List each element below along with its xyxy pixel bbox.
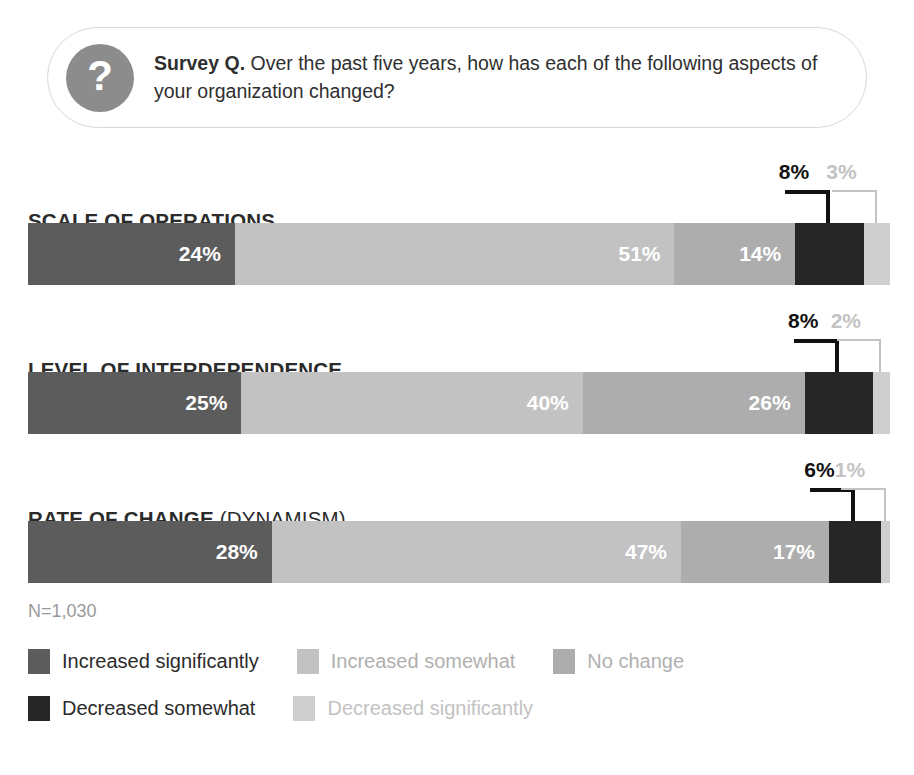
bar-segment[interactable]: 3% xyxy=(864,223,890,285)
bar-segment[interactable]: 47% xyxy=(272,521,681,583)
bar-segment[interactable]: 6% xyxy=(829,521,881,583)
bar-segment[interactable]: 26% xyxy=(583,372,805,434)
bar-segment[interactable]: 24% xyxy=(28,223,235,285)
legend-item-label: Increased significantly xyxy=(62,650,259,673)
bar-segment-value: 17% xyxy=(773,540,829,564)
callout-leader-line xyxy=(841,488,886,521)
legend-item-label: Decreased somewhat xyxy=(62,697,255,720)
callout-leader-line xyxy=(785,190,830,223)
sample-size-note: N=1,030 xyxy=(28,601,888,622)
question-mark-icon: ? xyxy=(66,44,134,112)
bar-segment-value: 25% xyxy=(185,391,241,415)
callout-value-label: 1% xyxy=(835,458,865,482)
bar-group: RATE OF CHANGE (DYNAMISM)6%1%28%47%17%6%… xyxy=(0,458,914,583)
bar-segment-value: 24% xyxy=(179,242,235,266)
legend-item-label: Increased somewhat xyxy=(331,650,516,673)
bar-segment[interactable]: 25% xyxy=(28,372,241,434)
bar-segment-value: 14% xyxy=(739,242,795,266)
bar-segment[interactable]: 2% xyxy=(873,372,890,434)
callout-value-label: 3% xyxy=(826,160,856,184)
question-mark-glyph: ? xyxy=(87,55,113,97)
bar-segment-value: 40% xyxy=(527,391,583,415)
callout-leader-line xyxy=(794,339,839,372)
bar-segment-value: 26% xyxy=(749,391,805,415)
survey-question-lead: Survey Q. xyxy=(154,52,245,74)
callout-zone: 8%3% xyxy=(28,160,890,223)
bar-segment-value: 51% xyxy=(618,242,674,266)
bar-segment-value: 28% xyxy=(216,540,272,564)
legend-swatch-icon xyxy=(28,696,50,721)
legend-item[interactable]: No change xyxy=(553,649,684,674)
callout-leader-line xyxy=(832,190,877,223)
callout-value-label: 8% xyxy=(779,160,809,184)
legend-row: Decreased somewhatDecreased significantl… xyxy=(28,696,888,721)
bar-segment[interactable]: 51% xyxy=(235,223,675,285)
legend-row: Increased significantlyIncreased somewha… xyxy=(28,649,888,674)
legend-item-label: No change xyxy=(587,650,684,673)
bar-group: LEVEL OF INTERDEPENDENCE8%2%25%40%26%8%2… xyxy=(0,309,914,434)
legend-item[interactable]: Increased significantly xyxy=(28,649,259,674)
legend-swatch-icon xyxy=(553,649,575,674)
stacked-bar-chart: SCALE OF OPERATIONS8%3%24%51%14%8%3%LEVE… xyxy=(0,160,914,607)
bar-segment[interactable]: 8% xyxy=(805,372,873,434)
chart-legend: Increased significantlyIncreased somewha… xyxy=(28,649,888,721)
bar-callout: 1% xyxy=(841,458,886,521)
stacked-bar: 24%51%14%8%3% xyxy=(28,223,890,285)
bar-callout: 2% xyxy=(837,309,882,372)
bar-segment[interactable]: 28% xyxy=(28,521,272,583)
survey-question-body: Over the past five years, how has each o… xyxy=(154,52,817,102)
callout-value-label: 6% xyxy=(804,458,834,482)
callout-leader-line xyxy=(837,339,882,372)
legend-swatch-icon xyxy=(293,696,315,721)
bar-segment-value: 47% xyxy=(625,540,681,564)
bar-segment[interactable]: 14% xyxy=(674,223,795,285)
stacked-bar: 25%40%26%8%2% xyxy=(28,372,890,434)
callout-value-label: 8% xyxy=(788,309,818,333)
legend-item-label: Decreased significantly xyxy=(327,697,533,720)
bar-callout: 8% xyxy=(785,160,830,223)
bar-callout: 3% xyxy=(832,160,877,223)
legend-item[interactable]: Increased somewhat xyxy=(297,649,516,674)
bar-segment[interactable]: 1% xyxy=(881,521,890,583)
stacked-bar: 28%47%17%6%1% xyxy=(28,521,890,583)
legend-item[interactable]: Decreased somewhat xyxy=(28,696,255,721)
bar-segment[interactable]: 8% xyxy=(795,223,864,285)
callout-value-label: 2% xyxy=(831,309,861,333)
legend-swatch-icon xyxy=(28,649,50,674)
survey-question-banner: ? Survey Q. Over the past five years, ho… xyxy=(47,27,867,128)
bar-group: SCALE OF OPERATIONS8%3%24%51%14%8%3% xyxy=(0,160,914,285)
legend-item[interactable]: Decreased significantly xyxy=(293,696,533,721)
callout-zone: 6%1% xyxy=(28,458,890,521)
callout-zone: 8%2% xyxy=(28,309,890,372)
survey-question-text: Survey Q. Over the past five years, how … xyxy=(154,50,842,105)
legend-swatch-icon xyxy=(297,649,319,674)
chart-footer: N=1,030 Increased significantlyIncreased… xyxy=(28,601,888,743)
bar-segment[interactable]: 17% xyxy=(681,521,829,583)
bar-segment[interactable]: 40% xyxy=(241,372,582,434)
